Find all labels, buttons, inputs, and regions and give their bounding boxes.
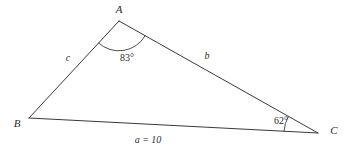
angle-label-a: 83° [120,53,134,63]
side-label-a: a = 10 [135,135,162,145]
vertex-label-b: B [14,118,21,129]
triangle-drawing [0,0,356,155]
vertex-label-c: C [330,125,337,136]
vertex-label-a: A [116,4,123,15]
angle-arc-at-a [99,36,146,51]
side-c-line [29,21,119,118]
angle-label-c: 62° [274,116,288,126]
triangle-figure: A B C a = 10 b c 83° 62° [0,0,356,155]
side-label-b: b [205,51,210,61]
side-label-c: c [66,53,70,63]
